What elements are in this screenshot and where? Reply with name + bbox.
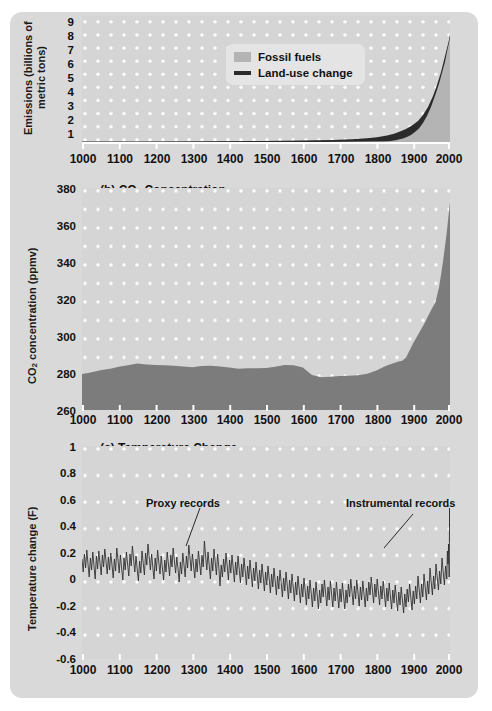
- panel-a-xtick-1700: 1700: [328, 152, 355, 166]
- panel-c-xtick-1900: 1900: [401, 663, 428, 677]
- panel-b-ytick-360: 360: [44, 220, 76, 232]
- chart-carbon-emissions: Emissions (billions ofmetric tons) (a) C…: [0, 0, 492, 175]
- panel-a-xtick-2000: 2000: [436, 152, 463, 166]
- panel-b-xtick-1500: 1500: [254, 413, 281, 427]
- panel-b-xtick-1900: 1900: [401, 413, 428, 427]
- panel-b-xtick-1600: 1600: [291, 413, 318, 427]
- panel-a-xtick-1200: 1200: [144, 152, 171, 166]
- panel-b-ytick-320: 320: [44, 294, 76, 306]
- panel-b-svg: [82, 188, 450, 410]
- annotation-proxy-records: Proxy records: [146, 497, 220, 509]
- panel-a-ytick-9: 9: [48, 16, 74, 28]
- legend-item-fossil-fuels: Fossil fuels: [234, 49, 353, 64]
- panel-b-ylabel: CO2 concentration (ppmv): [26, 228, 46, 403]
- panel-c-xaxis: [82, 653, 450, 661]
- panel-c-ytick-0-6: 0.6: [44, 494, 76, 506]
- legend-item-land-use-change: Land-use change: [234, 65, 353, 80]
- panel-a-xtick-1800: 1800: [365, 152, 392, 166]
- panel-c-svg: [82, 446, 450, 659]
- panel-c-ytick-neg0-2: -0.2: [40, 600, 76, 612]
- panel-c-xtick-1200: 1200: [144, 663, 171, 677]
- panel-c-plot-area: [82, 446, 450, 659]
- panel-a-ytick-8: 8: [48, 30, 74, 42]
- panel-b-xtick-1000: 1000: [70, 413, 97, 427]
- panel-a-xtick-1600: 1600: [291, 152, 318, 166]
- panel-c-ytick-neg0-4: -0.4: [40, 626, 76, 638]
- panel-c-xtick-1400: 1400: [217, 663, 244, 677]
- panel-a-legend: Fossil fuels Land-use change: [226, 44, 365, 85]
- panel-c-xtick-1700: 1700: [328, 663, 355, 677]
- panel-b-plot-area: [82, 188, 450, 410]
- panel-c-xtick-2000: 2000: [436, 663, 463, 677]
- panel-b-xtick-2000: 2000: [436, 413, 463, 427]
- panel-a-xtick-1000: 1000: [70, 152, 97, 166]
- panel-b-ytick-300: 300: [44, 331, 76, 343]
- panel-a-ytick-4: 4: [48, 86, 74, 98]
- panel-a-ytick-7: 7: [48, 44, 74, 56]
- panel-c-xtick-1000: 1000: [70, 663, 97, 677]
- panel-b-xaxis: [82, 404, 450, 412]
- panel-b-ytick-340: 340: [44, 257, 76, 269]
- chart-temperature-change: Temperature change (F) (c) Temperature C…: [0, 437, 492, 711]
- panel-a-ytick-2: 2: [48, 114, 74, 126]
- panel-a-xtick-1500: 1500: [254, 152, 281, 166]
- panel-a-xtick-1400: 1400: [217, 152, 244, 166]
- panel-a-ytick-3: 3: [48, 100, 74, 112]
- panel-c-xtick-1500: 1500: [254, 663, 281, 677]
- panel-a-xtick-1900: 1900: [401, 152, 428, 166]
- chart-co2-concentration: CO2 concentration (ppmv) (b) CO2 Concent…: [0, 180, 492, 430]
- panel-c-xtick-1800: 1800: [365, 663, 392, 677]
- legend-label-land-use-change: Land-use change: [258, 67, 353, 79]
- panel-c-ytick-0: 0: [44, 573, 76, 585]
- panel-c-ytick-1: 1: [44, 441, 76, 453]
- land-use-change-swatch-icon: [234, 71, 251, 75]
- panel-b-xtick-1800: 1800: [365, 413, 392, 427]
- panel-b-xtick-1300: 1300: [181, 413, 208, 427]
- panel-b-ytick-380: 380: [44, 183, 76, 195]
- panel-a-ytick-6: 6: [48, 58, 74, 70]
- panel-b-xtick-1200: 1200: [144, 413, 171, 427]
- panel-b-xtick-1100: 1100: [107, 413, 133, 427]
- panel-a-ytick-1: 1: [48, 128, 74, 140]
- legend-label-fossil-fuels: Fossil fuels: [258, 51, 321, 63]
- panel-c-ytick-0-2: 0.2: [44, 547, 76, 559]
- fossil-fuels-swatch-icon: [234, 52, 251, 62]
- panel-a-xtick-1100: 1100: [107, 152, 133, 166]
- climate-figure: Emissions (billions ofmetric tons) (a) C…: [0, 0, 492, 711]
- panel-c-xtick-1600: 1600: [291, 663, 318, 677]
- panel-c-xtick-1300: 1300: [181, 663, 208, 677]
- panel-a-xtick-1300: 1300: [181, 152, 208, 166]
- panel-c-ytick-0-4: 0.4: [44, 520, 76, 532]
- panel-a-xaxis: [82, 142, 450, 150]
- panel-c-ytick-0-8: 0.8: [44, 467, 76, 479]
- panel-b-ytick-280: 280: [44, 368, 76, 380]
- panel-c-xtick-1100: 1100: [107, 663, 133, 677]
- panel-b-xtick-1400: 1400: [217, 413, 244, 427]
- panel-b-xtick-1700: 1700: [328, 413, 355, 427]
- panel-a-ytick-5: 5: [48, 72, 74, 84]
- annotation-instrumental-records: Instrumental records: [346, 497, 455, 509]
